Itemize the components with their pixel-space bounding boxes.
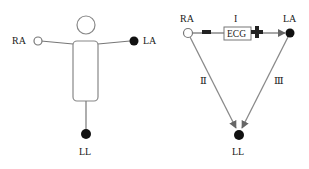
ecg-label: ECG — [227, 29, 246, 39]
ra-electrode-icon — [34, 37, 42, 45]
lead-3-label: Ⅲ — [274, 75, 284, 86]
einthoven-triangle: ECG RA LA LL I Ⅱ Ⅲ — [180, 13, 297, 157]
ra-electrode-icon — [184, 29, 193, 38]
body-figure: RA LA LL — [12, 16, 157, 157]
torso — [73, 41, 98, 101]
ll-label: LL — [79, 146, 91, 157]
ll-electrode-icon — [234, 130, 244, 140]
la-label: LA — [283, 13, 297, 24]
ra-label: RA — [180, 13, 195, 24]
la-electrode-icon — [286, 29, 295, 38]
lead-1-label: I — [234, 13, 237, 24]
ecg-lead-diagram: RA LA LL ECG RA LA LL I Ⅱ Ⅲ — [0, 0, 309, 169]
la-electrode-icon — [130, 37, 139, 46]
plus-sign-icon — [251, 26, 263, 38]
lead-2-label: Ⅱ — [200, 75, 207, 86]
right-arm — [41, 41, 73, 44]
left-arm — [98, 41, 130, 44]
minus-sign-icon — [202, 30, 211, 34]
lead-2-line — [190, 37, 236, 128]
ll-electrode-icon — [81, 129, 91, 139]
ll-label: LL — [232, 146, 244, 157]
la-label: LA — [143, 35, 157, 46]
head-icon — [77, 16, 95, 34]
ra-label: RA — [12, 35, 27, 46]
